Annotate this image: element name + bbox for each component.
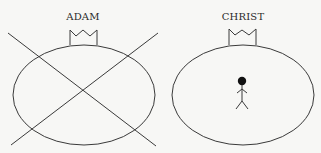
- christ-panel: CHRIST: [172, 11, 314, 145]
- diagram-canvas: ADAM CHRIST: [0, 0, 321, 153]
- christ-ellipse: [172, 45, 314, 145]
- diagram-svg: ADAM CHRIST: [0, 0, 321, 153]
- crown-icon: [229, 29, 256, 45]
- christ-label: CHRIST: [222, 11, 265, 22]
- crown-icon: [70, 30, 97, 45]
- adam-panel: ADAM: [8, 11, 158, 146]
- adam-ellipse: [13, 45, 155, 145]
- stick-figure-icon: [236, 77, 248, 109]
- adam-label: ADAM: [65, 11, 100, 22]
